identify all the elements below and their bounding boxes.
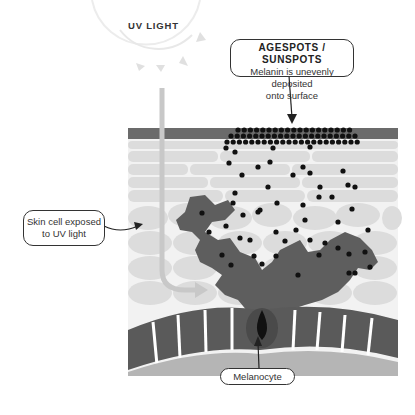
melanin-dot bbox=[251, 253, 256, 258]
melanin-dot bbox=[240, 212, 245, 217]
melanin-dot bbox=[266, 133, 271, 138]
melanin-dot bbox=[317, 184, 322, 189]
melanin-dot bbox=[355, 139, 360, 144]
melanin-dot bbox=[262, 139, 267, 144]
skin-cell-line1: Skin cell exposed bbox=[24, 216, 104, 228]
melanin-dot bbox=[315, 133, 320, 138]
melanin-dot bbox=[272, 133, 277, 138]
melanin-dot bbox=[329, 194, 334, 199]
melanin-dot bbox=[311, 139, 316, 144]
melanin-dot bbox=[266, 127, 271, 132]
melanin-dot bbox=[242, 127, 247, 132]
melanin-dot bbox=[259, 261, 264, 266]
agespots-title: AGESPOTS / SUNSPOTS bbox=[231, 42, 353, 66]
melanin-dot bbox=[228, 262, 233, 267]
melanin-dot bbox=[247, 133, 252, 138]
melanin-dot bbox=[206, 229, 211, 234]
skin-cell-callout: Skin cell exposed to UV light bbox=[23, 210, 105, 246]
melanin-dot bbox=[304, 127, 309, 132]
melanin-dot bbox=[352, 133, 357, 138]
melanin-dot bbox=[267, 159, 272, 164]
melanin-dot bbox=[310, 127, 315, 132]
melanin-dot bbox=[297, 127, 302, 132]
melanin-dot bbox=[346, 270, 351, 275]
melanin-dot bbox=[224, 139, 229, 144]
melanin-dot bbox=[328, 133, 333, 138]
melanin-dot bbox=[303, 133, 308, 138]
melanin-dot bbox=[273, 253, 278, 258]
uv-light-label: UV LIGHT bbox=[128, 20, 179, 31]
skin-cell-line2: to UV light bbox=[24, 228, 104, 240]
melanin-dot bbox=[290, 133, 295, 138]
melanin-dot bbox=[249, 139, 254, 144]
melanin-dot bbox=[342, 139, 347, 144]
melanin-dot bbox=[336, 139, 341, 144]
melanin-dot bbox=[282, 238, 287, 243]
melanin-dot bbox=[295, 272, 300, 277]
melanin-dot bbox=[278, 133, 283, 138]
melanin-dot bbox=[259, 133, 264, 138]
melanin-dot bbox=[330, 139, 335, 144]
melanin-dot bbox=[317, 139, 322, 144]
melanin-dot bbox=[340, 133, 345, 138]
melanin-dot bbox=[340, 168, 345, 173]
melanin-dot bbox=[293, 227, 298, 232]
melanin-dot bbox=[307, 237, 312, 242]
melanin-dot bbox=[274, 139, 279, 144]
melanin-dot bbox=[316, 194, 321, 199]
melanin-dot bbox=[274, 200, 279, 205]
melanin-dot bbox=[228, 133, 233, 138]
melanin-dot bbox=[231, 139, 236, 144]
melanin-dot bbox=[324, 139, 329, 144]
melanin-dot bbox=[349, 206, 354, 211]
melanin-dot bbox=[237, 139, 242, 144]
melanin-dot bbox=[254, 127, 259, 132]
melanin-dot bbox=[322, 240, 327, 245]
melanin-dot bbox=[284, 133, 289, 138]
melanin-dot bbox=[316, 252, 321, 257]
melanin-dot bbox=[247, 237, 252, 242]
melanin-dot bbox=[341, 127, 346, 132]
melanin-dot bbox=[365, 227, 370, 232]
melanin-dot bbox=[199, 210, 204, 215]
melanin-dot bbox=[241, 133, 246, 138]
melanin-dot bbox=[265, 184, 270, 189]
melanin-dot bbox=[345, 182, 350, 187]
melanin-dot bbox=[226, 160, 231, 165]
melanin-dot bbox=[248, 127, 253, 132]
melanin-dot bbox=[346, 251, 351, 256]
melanin-dot bbox=[255, 139, 260, 144]
melanin-dot bbox=[223, 223, 228, 228]
melanin-dot bbox=[348, 139, 353, 144]
melanin-dot bbox=[299, 139, 304, 144]
agespots-callout: AGESPOTS / SUNSPOTS Melanin is unevenly … bbox=[230, 39, 354, 77]
melanin-dot bbox=[300, 202, 305, 207]
melanin-dot bbox=[328, 127, 333, 132]
melanin-dot bbox=[232, 149, 237, 154]
melanin-dot bbox=[302, 217, 307, 222]
melanin-dot bbox=[255, 164, 260, 169]
melanin-dot bbox=[270, 145, 275, 150]
melanin-dot bbox=[300, 164, 305, 169]
melanin-dot bbox=[232, 190, 237, 195]
melanin-dot bbox=[260, 127, 265, 132]
melanin-dot bbox=[268, 139, 273, 144]
melanin-dot bbox=[347, 127, 352, 132]
melanin-dot bbox=[352, 184, 357, 189]
melanin-dot bbox=[219, 252, 224, 257]
melanin-dot bbox=[230, 200, 235, 205]
melanin-dot bbox=[253, 133, 258, 138]
melanin-dot bbox=[335, 245, 340, 250]
melanin-dot bbox=[346, 133, 351, 138]
melanin-dot bbox=[235, 127, 240, 132]
melanocyte-label: Melanocyte bbox=[221, 371, 294, 383]
melanin-dot bbox=[322, 127, 327, 132]
melanin-dot bbox=[293, 139, 298, 144]
melanin-dot bbox=[239, 172, 244, 177]
melanin-dot bbox=[307, 170, 312, 175]
sun-icon bbox=[92, 0, 206, 72]
melanin-dot bbox=[273, 229, 278, 234]
melanin-dot bbox=[367, 264, 372, 269]
melanin-dot bbox=[297, 133, 302, 138]
melanin-dot bbox=[321, 133, 326, 138]
